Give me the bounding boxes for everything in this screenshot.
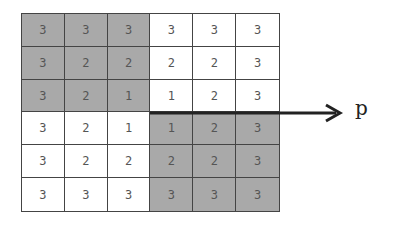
arrow-label: p [355,96,368,120]
diagram-canvas: 333333322223321123321123322223333333 p [0,0,394,225]
arrow-icon [0,0,394,225]
